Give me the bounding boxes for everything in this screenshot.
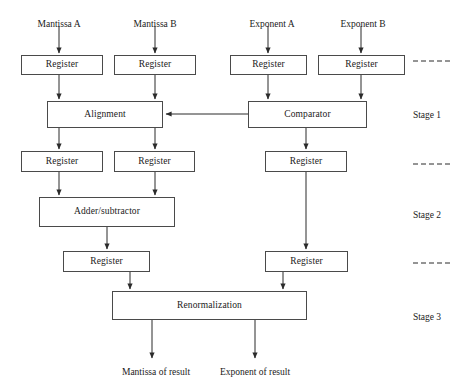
output-label-mantissa-of-result: Mantissa of result: [122, 368, 190, 378]
block-label: Register: [345, 60, 377, 70]
block-register-exponent-b[interactable]: Register: [318, 55, 405, 75]
block-register-aligned-mantissa-b[interactable]: Register: [114, 151, 195, 172]
block-label: Adder/subtractor: [74, 207, 140, 217]
stage-label-stage-2: Stage 2: [413, 211, 441, 221]
block-label: Alignment: [84, 110, 126, 120]
block-comparator[interactable]: Comparator: [248, 101, 367, 128]
block-register-aligned-mantissa-a[interactable]: Register: [21, 151, 103, 172]
block-register-mantissa-a[interactable]: Register: [21, 55, 103, 75]
block-register-exponent-a[interactable]: Register: [230, 55, 307, 75]
block-register-exponent-stage1[interactable]: Register: [265, 151, 347, 172]
diagram-canvas: RegisterRegisterRegisterRegisterAlignmen…: [0, 0, 464, 384]
block-label: Register: [90, 257, 122, 267]
block-label: Register: [46, 157, 78, 167]
block-label: Renormalization: [177, 301, 242, 311]
block-alignment[interactable]: Alignment: [47, 101, 163, 128]
stage-label-stage-1: Stage 1: [413, 111, 441, 121]
block-label: Register: [139, 60, 171, 70]
input-label-exponent-b: Exponent B: [340, 20, 385, 30]
block-label: Register: [290, 157, 322, 167]
block-label: Register: [138, 157, 170, 167]
input-label-mantissa-a: Mantissa A: [37, 20, 80, 30]
block-register-sum[interactable]: Register: [63, 251, 150, 272]
block-label: Register: [290, 257, 322, 267]
block-label: Comparator: [284, 110, 330, 120]
block-label: Register: [46, 60, 78, 70]
stage-label-stage-3: Stage 3: [413, 313, 441, 323]
block-adder-subtractor[interactable]: Adder/subtractor: [39, 197, 175, 227]
input-label-exponent-a: Exponent A: [249, 20, 294, 30]
stage-divider-group: [413, 61, 453, 263]
block-renormalization[interactable]: Renormalization: [112, 291, 307, 320]
block-label: Register: [252, 60, 284, 70]
block-register-exponent-stage2[interactable]: Register: [265, 251, 348, 272]
output-label-exponent-of-result: Exponent of result: [220, 368, 290, 378]
block-register-mantissa-b[interactable]: Register: [114, 55, 196, 75]
input-label-mantissa-b: Mantissa B: [133, 20, 176, 30]
